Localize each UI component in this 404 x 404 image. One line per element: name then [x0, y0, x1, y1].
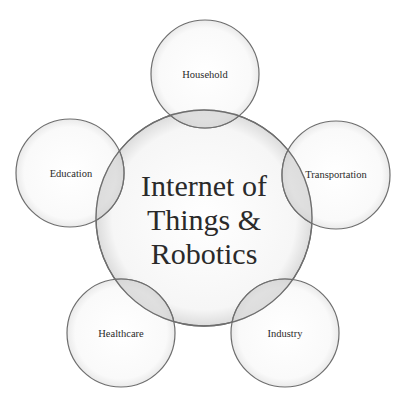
center-title-line1: Internet of [141, 169, 267, 202]
label-education: Education [50, 168, 93, 179]
label-industry: Industry [268, 328, 304, 339]
diagram-canvas: Household Education Transportation Healt… [0, 0, 404, 404]
label-household: Household [182, 69, 228, 80]
label-healthcare: Healthcare [98, 328, 144, 339]
label-transportation: Transportation [305, 169, 367, 180]
center-title-line2: Things & [147, 203, 261, 236]
center-title-line3: Robotics [151, 237, 258, 270]
iot-robotics-diagram: Household Education Transportation Healt… [0, 0, 404, 404]
